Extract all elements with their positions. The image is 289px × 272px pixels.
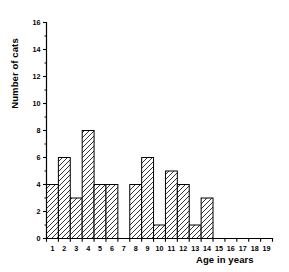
x-tick-label: 11 [168, 244, 176, 253]
y-tick-label: 8 [37, 126, 41, 135]
x-axis-title: Age in years [196, 254, 254, 265]
bar [177, 185, 189, 239]
x-axis-ticks: 12345678910111213141516171819 [47, 239, 273, 253]
bars-group [47, 131, 214, 239]
y-axis-title: Number of cats [9, 26, 20, 122]
x-tick-label: 7 [122, 244, 126, 253]
x-tick-label: 1 [50, 244, 54, 253]
x-tick-label: 10 [156, 244, 164, 253]
y-axis-ticks: 0246810121416 [33, 18, 47, 243]
x-tick-label: 15 [215, 244, 223, 253]
x-tick-label: 14 [203, 244, 211, 253]
x-tick-label: 12 [179, 244, 187, 253]
histogram-chart: Number of cats Age in years 123456789101… [0, 0, 289, 272]
y-tick-label: 2 [37, 207, 41, 216]
x-tick-label: 13 [191, 244, 199, 253]
x-tick-label: 6 [110, 244, 114, 253]
y-tick-label: 6 [37, 153, 41, 162]
x-tick-label: 5 [98, 244, 102, 253]
x-tick-label: 2 [62, 244, 66, 253]
y-tick-label: 10 [33, 99, 41, 108]
y-tick-label: 12 [33, 72, 41, 81]
bar [201, 198, 213, 239]
bar [130, 185, 142, 239]
bar [106, 185, 118, 239]
bar [94, 185, 106, 239]
bar [82, 131, 94, 239]
y-tick-label: 16 [33, 18, 41, 27]
y-tick-label: 4 [37, 180, 41, 189]
bar [142, 158, 154, 239]
y-tick-label: 0 [37, 234, 41, 243]
x-tick-label: 8 [134, 244, 138, 253]
x-tick-label: 16 [227, 244, 235, 253]
bar [58, 158, 70, 239]
bar [165, 171, 177, 239]
x-tick-label: 18 [251, 244, 259, 253]
bar [70, 198, 82, 239]
y-tick-label: 14 [33, 45, 41, 54]
plot-area: 12345678910111213141516171819 0246810121… [0, 0, 289, 272]
x-tick-label: 9 [146, 244, 150, 253]
x-tick-label: 4 [86, 244, 90, 253]
bar [154, 225, 166, 239]
x-tick-label: 3 [74, 244, 78, 253]
x-tick-label: 17 [239, 244, 247, 253]
x-tick-label: 19 [263, 244, 271, 253]
bar [189, 225, 201, 239]
bar [47, 185, 59, 239]
